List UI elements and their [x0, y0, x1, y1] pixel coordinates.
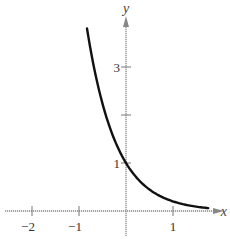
chart: −2−1113xy — [0, 0, 230, 244]
plot-area: −2−1113xy — [0, 0, 230, 244]
x-axis-label: x — [220, 204, 228, 219]
x-tick-label: −2 — [21, 219, 35, 234]
x-tick-label: −1 — [68, 219, 82, 234]
x-tick-label: 1 — [170, 219, 177, 234]
y-axis-label: y — [121, 1, 130, 16]
exponential-curve — [87, 28, 208, 208]
y-axis-arrow-icon — [123, 16, 129, 27]
y-tick-label: 3 — [114, 60, 121, 75]
y-tick-label: 1 — [114, 156, 121, 171]
